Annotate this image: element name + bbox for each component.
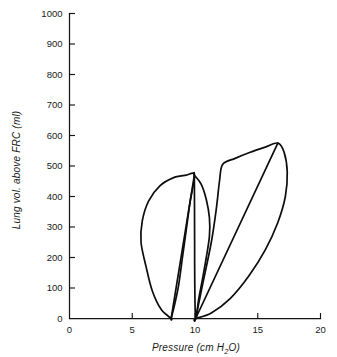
y-tick-label: 1000	[41, 8, 62, 19]
y-tick-label: 300	[47, 221, 63, 232]
x-tick-label: 5	[130, 324, 135, 335]
y-tick-label: 0	[57, 313, 62, 324]
x-tick-label: 20	[315, 324, 326, 335]
x-axis-ticks	[132, 313, 320, 319]
curve-loop-1-low-compliance	[141, 173, 195, 320]
x-axis-tick-labels: 05101520	[67, 324, 326, 335]
x-tick-label: 10	[190, 324, 201, 335]
y-tick-label: 500	[47, 160, 63, 171]
y-axis-ticks	[70, 14, 76, 289]
x-axis-label: Pressure (cm H2O)	[152, 342, 240, 356]
curve-loop-1-diagonal-chord	[171, 175, 194, 318]
y-tick-label: 700	[47, 99, 63, 110]
x-tick-label: 15	[252, 324, 263, 335]
y-axis-label: Lung vol. above FRC (ml)	[11, 111, 22, 230]
curve-loop-2-mid-narrow	[194, 173, 210, 319]
y-tick-label: 800	[47, 69, 63, 80]
y-tick-label: 600	[47, 130, 63, 141]
chart-svg: 05101520 0100200300400500600700800900100…	[0, 0, 337, 357]
pressure-volume-chart: 05101520 0100200300400500600700800900100…	[0, 0, 337, 357]
curve-loop-3-high-compliance	[194, 143, 287, 321]
x-tick-label: 0	[67, 324, 72, 335]
y-tick-label: 200	[47, 252, 63, 263]
y-axis-tick-labels: 01002003004005006007008009001000	[41, 8, 62, 324]
y-tick-label: 100	[47, 282, 63, 293]
y-tick-label: 900	[47, 38, 63, 49]
curve-group	[141, 143, 287, 321]
y-tick-label: 400	[47, 191, 63, 202]
